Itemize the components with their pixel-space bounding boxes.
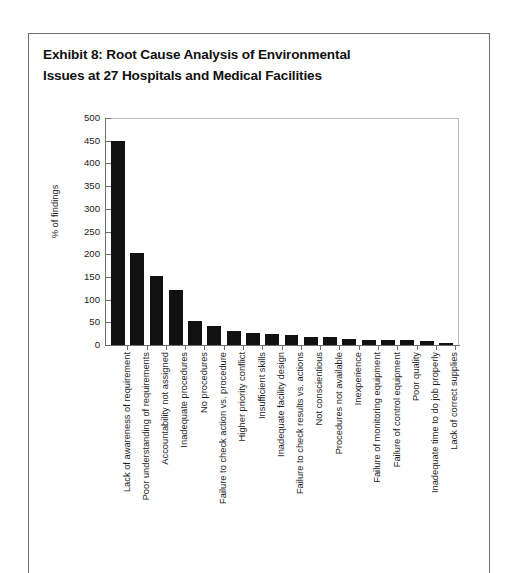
x-tick-label: Accountability not assigned — [160, 352, 170, 465]
y-tick-label: 450 — [62, 136, 100, 145]
bar-series — [106, 118, 459, 345]
x-tick — [397, 346, 398, 350]
bar — [207, 326, 221, 345]
x-tick — [417, 346, 418, 350]
y-tick-label: 100 — [62, 295, 100, 304]
x-tick-label: Not conscientious — [314, 352, 324, 425]
y-tick — [106, 345, 111, 346]
x-tick — [243, 346, 244, 350]
y-axis-title: % of findings — [49, 152, 60, 272]
x-tick — [127, 346, 128, 350]
bar — [381, 340, 395, 345]
bar — [169, 290, 183, 345]
bar — [265, 334, 279, 345]
x-tick-label: Insufficient skills — [257, 352, 267, 419]
bar — [150, 276, 164, 345]
x-tick-label: Failure of control equipment — [392, 352, 402, 467]
bar — [111, 141, 125, 345]
x-tick — [339, 346, 340, 350]
x-tick-label: Procedures not available — [334, 352, 344, 454]
x-tick — [147, 346, 148, 350]
y-tick-label: 500 — [62, 113, 100, 122]
x-tick — [378, 346, 379, 350]
x-tick — [204, 346, 205, 350]
x-tick-label: No procedures — [199, 352, 209, 413]
x-tick-label: Inadequate time to do job properly — [430, 352, 440, 493]
x-tick-label: Lack of correct supplies — [449, 352, 459, 450]
x-tick-label: Higher priority conflict — [237, 352, 247, 441]
bar — [362, 340, 376, 345]
y-tick-label: 250 — [62, 227, 100, 236]
y-tick-label: 300 — [62, 204, 100, 213]
bar — [304, 337, 318, 345]
x-tick — [455, 346, 456, 350]
x-tick — [166, 346, 167, 350]
x-tick-label: Lack of awareness of requirement — [122, 352, 132, 492]
y-tick-label: 400 — [62, 158, 100, 167]
x-tick-label: Inadequate procedures — [179, 352, 189, 448]
x-tick — [282, 346, 283, 350]
x-tick-label: Failure of monitoring equipment — [372, 352, 382, 483]
y-tick-label: 200 — [62, 249, 100, 258]
x-tick-label: Inexperience — [353, 352, 363, 405]
bar — [130, 253, 144, 345]
bar — [342, 339, 356, 345]
y-tick-label: 150 — [62, 272, 100, 281]
bar — [439, 343, 453, 345]
x-tick — [436, 346, 437, 350]
bar — [400, 340, 414, 345]
x-tick-label: Inadequate facility design — [276, 352, 286, 457]
x-tick-label: Poor quality — [411, 352, 421, 401]
x-tick — [224, 346, 225, 350]
x-tick — [359, 346, 360, 350]
x-tick-label: Failure to check results vs. actions — [295, 352, 305, 494]
x-tick-label: Failure to check action vs. procedure — [218, 352, 228, 504]
x-tick — [185, 346, 186, 350]
x-tick — [262, 346, 263, 350]
x-tick-label: Poor understanding of requirements — [141, 352, 151, 500]
bar — [323, 337, 337, 345]
bar — [285, 335, 299, 345]
x-tick — [320, 346, 321, 350]
x-tick — [301, 346, 302, 350]
bar — [246, 333, 260, 345]
bar — [420, 341, 434, 345]
y-tick-label: 0 — [62, 340, 100, 349]
y-tick-label: 50 — [62, 317, 100, 326]
y-tick-label: 350 — [62, 181, 100, 190]
bar — [227, 331, 241, 345]
bar — [188, 321, 202, 345]
